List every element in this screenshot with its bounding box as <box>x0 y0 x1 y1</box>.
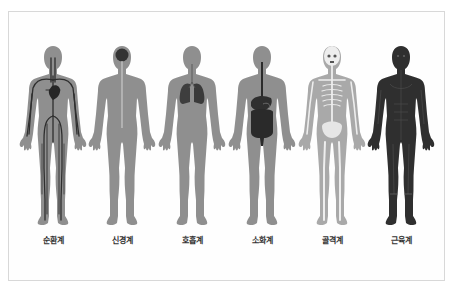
respiratory-system-figure <box>157 44 227 228</box>
body-silhouette-icon <box>157 44 227 228</box>
body-silhouette-icon <box>87 44 157 228</box>
body-silhouette-icon <box>297 44 367 228</box>
body-silhouette-icon <box>18 44 88 228</box>
muscular-system-figure <box>366 44 436 228</box>
circulatory-system-figure <box>18 44 88 228</box>
system-label-respiratory: 호흡계 <box>157 234 227 245</box>
system-label-skeletal: 골격계 <box>297 234 367 245</box>
digestive-system-figure <box>227 44 297 228</box>
system-label-circulatory: 순환계 <box>18 234 88 245</box>
system-label-muscular: 근육계 <box>366 234 436 245</box>
nervous-system-figure <box>87 44 157 228</box>
skeletal-system-figure <box>297 44 367 228</box>
body-silhouette-icon <box>227 44 297 228</box>
body-silhouette-icon <box>366 44 436 228</box>
system-label-digestive: 소화계 <box>227 234 297 245</box>
system-label-nervous: 신경계 <box>87 234 157 245</box>
